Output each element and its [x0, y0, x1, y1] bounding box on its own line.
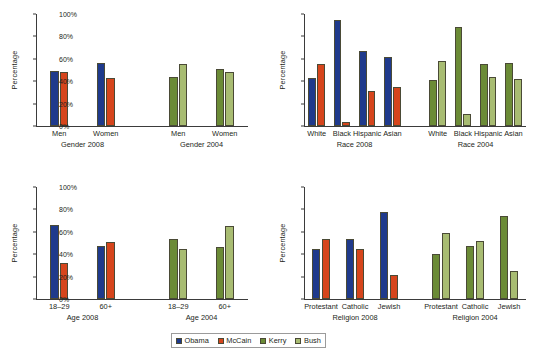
y-axis-line	[304, 187, 305, 299]
x-group-label: Age 2008	[67, 313, 99, 322]
bar-race-kerry-black	[455, 27, 463, 126]
bar-age-bush-60-	[225, 226, 234, 299]
y-tick-label: 20%	[0, 273, 31, 280]
bar-race-mccain-hispanic	[368, 91, 376, 126]
x-category-label: Catholic	[462, 302, 489, 311]
bar-race-mccain-black	[342, 122, 350, 126]
y-tick-label: 0%	[0, 296, 31, 303]
bar-religion-mccain-protestant	[322, 239, 331, 299]
legend-item-bush: Bush	[295, 337, 320, 344]
x-category-label: Men	[171, 129, 185, 138]
bar-race-bush-black	[463, 114, 471, 126]
bar-age-obama-18-29	[50, 225, 59, 299]
legend-label: Obama	[185, 337, 209, 344]
x-category-label: White	[428, 129, 447, 138]
y-tick-label: 100%	[0, 184, 31, 191]
bar-religion-bush-protestant	[442, 233, 451, 299]
y-tick-label: 80%	[0, 33, 31, 40]
chart-race: Percentage0%20%40%60%80%100%WhiteBlackHi…	[272, 0, 543, 175]
legend-label: Bush	[304, 337, 321, 344]
x-category-label: 60+	[99, 302, 112, 311]
x-category-label: Black	[454, 129, 472, 138]
bar-religion-obama-catholic	[346, 239, 355, 299]
y-tick-label: 0%	[0, 123, 31, 130]
x-group-label: Age 2004	[186, 313, 218, 322]
bar-age-kerry-18-29	[169, 239, 178, 299]
x-group-label: Religion 2004	[452, 313, 497, 322]
x-category-label: Women	[212, 129, 237, 138]
x-category-label: Men	[52, 129, 66, 138]
x-group-label: Race 2004	[458, 140, 494, 149]
x-category-label: Catholic	[342, 302, 369, 311]
bar-religion-obama-protestant	[312, 249, 321, 299]
x-axis-line	[304, 299, 526, 300]
bar-race-bush-hispanic	[489, 77, 497, 126]
y-tick-label: 20%	[0, 100, 31, 107]
bar-religion-mccain-jewish	[390, 275, 399, 299]
bar-religion-kerry-jewish	[500, 216, 509, 299]
x-category-label: Women	[93, 129, 118, 138]
legend-item-kerry: Kerry	[260, 337, 286, 344]
bar-race-kerry-asian	[505, 63, 513, 126]
y-tick-label: 60%	[59, 55, 299, 62]
bar-race-bush-white	[438, 61, 446, 126]
x-category-label: 18–29	[49, 302, 70, 311]
x-group-label: Gender 2008	[61, 140, 104, 149]
x-category-label: Protestant	[304, 302, 338, 311]
legend-item-obama: Obama	[176, 337, 209, 344]
y-tick-label: 80%	[59, 33, 299, 40]
bar-race-obama-hispanic	[359, 51, 367, 126]
y-tick-label: 60%	[59, 228, 299, 235]
chart-legend: ObamaMcCainKerryBush	[171, 333, 326, 348]
bar-religion-bush-catholic	[476, 241, 485, 299]
x-axis-line	[304, 126, 526, 127]
bar-race-kerry-white	[429, 80, 437, 126]
y-axis-line	[304, 14, 305, 126]
x-group-label: Religion 2008	[332, 313, 377, 322]
y-tick-label: 80%	[0, 206, 31, 213]
y-axis-line	[36, 187, 37, 299]
bar-gender-obama-men	[50, 71, 59, 126]
chart-religion: Percentage0%20%40%60%80%100%ProtestantCa…	[272, 175, 543, 325]
x-category-label: Jewish	[498, 302, 521, 311]
legend-swatch-obama	[176, 338, 182, 344]
bar-religion-kerry-protestant	[432, 254, 441, 299]
legend-swatch-kerry	[260, 338, 266, 344]
bar-religion-bush-jewish	[510, 271, 519, 299]
y-tick-label: 100%	[0, 11, 31, 18]
bar-race-mccain-asian	[393, 87, 401, 126]
bar-race-obama-asian	[384, 57, 392, 126]
y-tick-label: 20%	[59, 100, 299, 107]
x-category-label: Hispanic	[353, 129, 381, 138]
bar-age-mccain-18-29	[60, 263, 69, 299]
bar-race-kerry-hispanic	[480, 64, 488, 126]
x-category-label: White	[307, 129, 326, 138]
legend-item-mccain: McCain	[218, 337, 252, 344]
panel-gender: Percentage0%20%40%60%80%100%MenWomenGend…	[0, 0, 272, 175]
x-category-label: Asian	[383, 129, 402, 138]
y-tick-label: 20%	[59, 273, 299, 280]
panel-religion: Percentage0%20%40%60%80%100%ProtestantCa…	[272, 175, 543, 325]
bar-race-mccain-white	[317, 64, 325, 126]
chart-grid: Percentage0%20%40%60%80%100%MenWomenGend…	[0, 0, 543, 355]
y-tick-label: 80%	[59, 206, 299, 213]
x-category-label: Jewish	[378, 302, 401, 311]
x-category-label: 18–29	[168, 302, 189, 311]
x-category-label: Asian	[504, 129, 523, 138]
y-tick-label: 60%	[0, 228, 31, 235]
panel-race: Percentage0%20%40%60%80%100%WhiteBlackHi…	[272, 0, 543, 175]
legend-label: McCain	[226, 337, 251, 344]
y-tick-label: 40%	[0, 251, 31, 258]
y-tick-label: 0%	[59, 123, 299, 130]
legend-swatch-bush	[295, 338, 301, 344]
legend-swatch-mccain	[218, 338, 224, 344]
y-tick-label: 60%	[0, 55, 31, 62]
bar-race-obama-black	[334, 20, 342, 126]
bar-religion-kerry-catholic	[466, 246, 475, 299]
x-group-label: Gender 2004	[180, 140, 223, 149]
bar-race-obama-white	[308, 78, 316, 126]
y-tick-label: 100%	[59, 11, 299, 18]
x-category-label: Hispanic	[474, 129, 502, 138]
bar-religion-obama-jewish	[380, 212, 389, 299]
x-category-label: 60+	[218, 302, 231, 311]
